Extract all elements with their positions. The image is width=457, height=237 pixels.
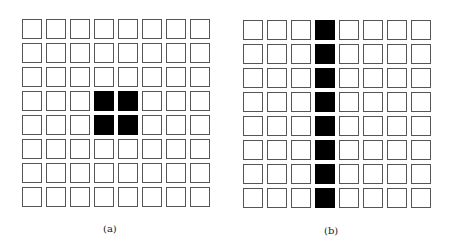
empty-pixel-cell [387,20,407,40]
empty-pixel-cell [190,19,210,39]
empty-pixel-cell [94,67,114,87]
empty-pixel-cell [142,67,162,87]
empty-pixel-cell [94,139,114,159]
empty-pixel-cell [142,139,162,159]
empty-pixel-cell [363,44,383,64]
empty-pixel-cell [70,115,90,135]
empty-pixel-cell [411,188,431,208]
empty-pixel-cell [387,92,407,112]
pixel-grid-b [243,20,431,208]
empty-pixel-cell [22,115,42,135]
empty-pixel-cell [46,187,66,207]
empty-pixel-cell [118,139,138,159]
empty-pixel-cell [243,140,263,160]
empty-pixel-cell [70,43,90,63]
empty-pixel-cell [94,187,114,207]
empty-pixel-cell [411,20,431,40]
empty-pixel-cell [22,19,42,39]
empty-pixel-cell [291,188,311,208]
filled-pixel-cell [94,91,114,111]
empty-pixel-cell [243,188,263,208]
empty-pixel-cell [387,164,407,184]
empty-pixel-cell [166,163,186,183]
figure-label-b: (b) [324,225,338,236]
empty-pixel-cell [94,163,114,183]
empty-pixel-cell [142,187,162,207]
filled-pixel-cell [315,188,335,208]
empty-pixel-cell [166,43,186,63]
filled-pixel-cell [118,91,138,111]
filled-pixel-cell [94,115,114,135]
empty-pixel-cell [267,164,287,184]
empty-pixel-cell [291,164,311,184]
empty-pixel-cell [190,67,210,87]
empty-pixel-cell [411,92,431,112]
empty-pixel-cell [363,116,383,136]
empty-pixel-cell [94,19,114,39]
empty-pixel-cell [166,91,186,111]
filled-pixel-cell [315,92,335,112]
empty-pixel-cell [46,43,66,63]
empty-pixel-cell [243,116,263,136]
empty-pixel-cell [190,163,210,183]
empty-pixel-cell [339,188,359,208]
empty-pixel-cell [70,139,90,159]
empty-pixel-cell [339,68,359,88]
empty-pixel-cell [166,187,186,207]
filled-pixel-cell [118,115,138,135]
empty-pixel-cell [267,140,287,160]
empty-pixel-cell [291,68,311,88]
empty-pixel-cell [70,163,90,183]
empty-pixel-cell [142,43,162,63]
empty-pixel-cell [243,68,263,88]
empty-pixel-cell [387,188,407,208]
empty-pixel-cell [387,68,407,88]
filled-pixel-cell [315,116,335,136]
empty-pixel-cell [190,91,210,111]
empty-pixel-cell [70,67,90,87]
pixel-grid-a [22,19,210,207]
empty-pixel-cell [339,20,359,40]
empty-pixel-cell [339,140,359,160]
empty-pixel-cell [267,68,287,88]
empty-pixel-cell [46,115,66,135]
filled-pixel-cell [315,164,335,184]
empty-pixel-cell [46,67,66,87]
empty-pixel-cell [267,92,287,112]
empty-pixel-cell [22,91,42,111]
empty-pixel-cell [387,116,407,136]
empty-pixel-cell [46,91,66,111]
empty-pixel-cell [166,115,186,135]
empty-pixel-cell [267,188,287,208]
empty-pixel-cell [243,20,263,40]
empty-pixel-cell [22,163,42,183]
empty-pixel-cell [387,44,407,64]
empty-pixel-cell [243,44,263,64]
empty-pixel-cell [243,164,263,184]
empty-pixel-cell [142,19,162,39]
empty-pixel-cell [118,67,138,87]
empty-pixel-cell [363,164,383,184]
filled-pixel-cell [315,20,335,40]
empty-pixel-cell [70,187,90,207]
empty-pixel-cell [46,163,66,183]
empty-pixel-cell [411,140,431,160]
empty-pixel-cell [118,43,138,63]
empty-pixel-cell [267,44,287,64]
empty-pixel-cell [70,19,90,39]
empty-pixel-cell [267,20,287,40]
empty-pixel-cell [142,163,162,183]
empty-pixel-cell [267,116,287,136]
filled-pixel-cell [315,68,335,88]
empty-pixel-cell [190,115,210,135]
empty-pixel-cell [411,164,431,184]
empty-pixel-cell [46,19,66,39]
empty-pixel-cell [411,68,431,88]
empty-pixel-cell [291,20,311,40]
empty-pixel-cell [46,139,66,159]
empty-pixel-cell [363,68,383,88]
filled-pixel-cell [315,44,335,64]
figure-label-a: (a) [103,223,117,234]
empty-pixel-cell [291,140,311,160]
empty-pixel-cell [22,43,42,63]
